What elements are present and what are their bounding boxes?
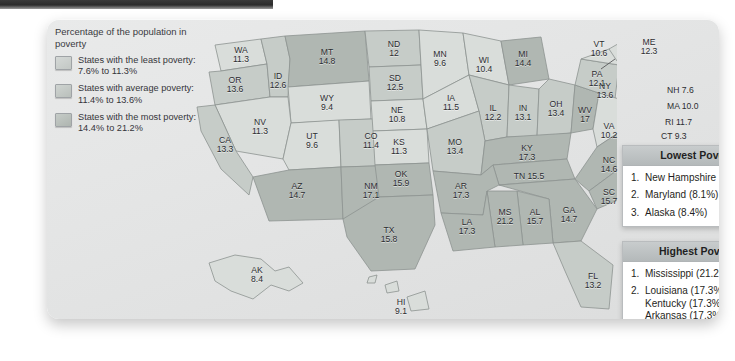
state-value-CO: 11.4	[363, 141, 379, 150]
state-label-OK: OK15.9	[393, 170, 410, 189]
state-value-WI: 10.4	[476, 65, 493, 74]
state-value-ND: 12	[388, 49, 400, 58]
state-value-NM: 17.1	[363, 191, 380, 200]
state-label-FL: FL13.2	[585, 272, 602, 291]
state-label-VA: VA10.2	[601, 122, 618, 141]
state-shape-HI-3	[407, 291, 429, 311]
state-label-GA: GA14.7	[561, 206, 578, 225]
state-label-LA: LA17.3	[459, 218, 476, 237]
state-label-NY: NY13.6	[597, 82, 614, 101]
state-value-AK: 8.4	[251, 275, 263, 284]
rank-text: Mississippi (21.2%)	[645, 268, 719, 280]
callout-MA: MA 10.0	[667, 102, 699, 111]
state-label-TN: TN 15.5	[514, 172, 545, 181]
state-label-NM: NM17.1	[363, 182, 380, 201]
rank-number: 2.	[631, 285, 645, 319]
state-value-FL: 13.2	[585, 281, 602, 290]
state-value-MS: 21.2	[497, 217, 514, 226]
figure-card: Percentage of the population in poverty …	[47, 19, 719, 319]
rank-number: 2.	[631, 189, 645, 201]
state-value-NY: 13.6	[597, 91, 614, 100]
state-value-MT: 14.8	[319, 57, 336, 66]
highest-poverty-box: Highest Poverty 1. Mississippi (21.2%) 2…	[622, 241, 719, 319]
highest-poverty-list: 1. Mississippi (21.2%) 2. Louisiana (17.…	[623, 262, 719, 319]
state-label-SC: SC15.7	[601, 188, 618, 207]
state-value-KS: 11.3	[391, 147, 407, 156]
state-value-NC: 14.6	[601, 165, 618, 174]
state-value-OH: 13.4	[548, 109, 565, 118]
state-label-HI: HI9.1	[395, 298, 407, 317]
state-label-WV: WV17	[578, 106, 592, 125]
state-value-UT: 9.6	[306, 141, 318, 150]
state-label-KY: KY17.3	[519, 144, 536, 163]
state-value-IL: 12.2	[485, 113, 502, 122]
state-value-WV: 17	[578, 115, 592, 124]
state-label-NE: NE10.8	[389, 106, 406, 125]
state-label-IA: IA11.5	[443, 94, 459, 113]
most-poverty-swatch	[55, 113, 72, 127]
state-label-CA: CA13.3	[217, 136, 234, 155]
state-value-ID: 12.6	[270, 81, 287, 90]
list-item: 3. Alaska (8.4%)	[631, 207, 719, 219]
callout-NH: NH 7.6	[667, 86, 694, 95]
state-value-MI: 14.4	[515, 59, 532, 68]
state-value-AL: 15.7	[527, 217, 544, 226]
state-label-AK: AK8.4	[251, 266, 263, 285]
state-label-SD: SD12.5	[387, 74, 404, 93]
state-value-TX: 15.8	[381, 235, 398, 244]
state-value-SD: 12.5	[387, 83, 404, 92]
state-shape-HI-1	[367, 275, 377, 283]
state-label-AR: AR17.3	[453, 182, 470, 201]
state-shape-FL	[553, 241, 613, 309]
state-label-UT: UT9.6	[306, 132, 318, 151]
state-label-MS: MS21.2	[497, 208, 514, 227]
average-poverty-swatch	[55, 84, 72, 98]
lowest-poverty-box: Lowest Poverty 1. New Hampshire (7.6%) 2…	[622, 145, 719, 227]
state-label-CO: CO11.4	[363, 132, 379, 151]
rank-text: Alaska (8.4%)	[645, 207, 719, 219]
state-value-VA: 10.2	[601, 131, 618, 140]
state-value-MO: 13.4	[447, 147, 464, 156]
state-label-ND: ND12	[388, 40, 400, 59]
state-value-WA: 11.3	[233, 55, 249, 64]
list-item: 2. Maryland (8.1%)	[631, 189, 719, 201]
state-label-IN: IN13.1	[515, 104, 532, 123]
state-label-OH: OH13.4	[548, 100, 565, 119]
state-label-NC: NC14.6	[601, 156, 618, 175]
least-poverty-swatch	[55, 56, 72, 70]
state-value-NE: 10.8	[389, 115, 406, 124]
state-value-IA: 11.5	[443, 103, 459, 112]
state-label-ME: ME12.3	[641, 38, 658, 57]
state-label-MO: MO13.4	[447, 138, 464, 157]
state-value-VT: 10.6	[591, 49, 608, 58]
state-value-NV: 11.3	[252, 127, 268, 136]
state-value-CA: 13.3	[217, 145, 234, 154]
rank-number: 1.	[631, 172, 645, 184]
state-value-KY: 17.3	[519, 153, 536, 162]
state-value-WY: 9.4	[320, 103, 334, 112]
rank-number: 3.	[631, 207, 645, 219]
state-label-ID: ID12.6	[270, 72, 287, 91]
list-item: 2. Louisiana (17.3%); Kentucky (17.3%); …	[631, 285, 719, 319]
state-value-SC: 15.7	[601, 197, 618, 206]
state-label-TX: TX15.8	[381, 226, 398, 245]
state-value-AR: 17.3	[453, 191, 470, 200]
state-label-WA: WA11.3	[233, 46, 249, 65]
state-value-HI: 9.1	[395, 307, 407, 316]
state-label-AZ: AZ14.7	[289, 182, 306, 201]
poverty-map-figure: Percentage of the population in poverty …	[0, 0, 735, 361]
state-label-WI: WI10.4	[476, 56, 493, 75]
state-label-MN: MN9.6	[433, 50, 446, 69]
header-band	[0, 0, 273, 9]
state-value-IN: 13.1	[515, 113, 532, 122]
highest-poverty-heading: Highest Poverty	[623, 242, 719, 262]
state-label-OR: OR13.6	[227, 76, 244, 95]
callout-CT: CT 9.3	[661, 132, 687, 141]
state-value-TN: 15.5	[528, 171, 545, 181]
state-value-GA: 14.7	[561, 215, 578, 224]
callout-RI: RI 11.7	[665, 118, 692, 127]
list-item: 1. Mississippi (21.2%)	[631, 268, 719, 280]
rank-text: Maryland (8.1%)	[645, 189, 719, 201]
list-item: 1. New Hampshire (7.6%)	[631, 172, 719, 184]
rank-number: 1.	[631, 268, 645, 280]
